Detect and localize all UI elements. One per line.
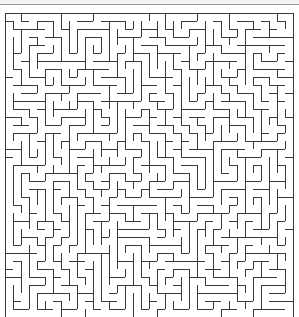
- maze-board[interactable]: [0, 0, 299, 317]
- maze-walls: [5, 13, 293, 317]
